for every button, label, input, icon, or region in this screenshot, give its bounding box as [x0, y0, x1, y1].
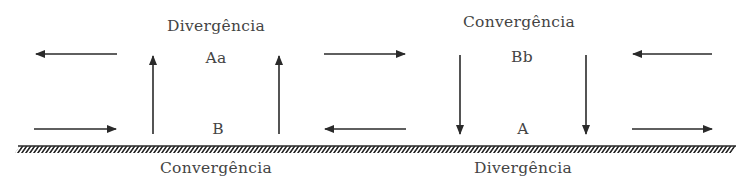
label-left-top-divergence: Divergência — [167, 17, 265, 35]
ground-surface — [15, 146, 736, 153]
label-high-a: A — [517, 120, 529, 138]
label-right-top-convergence: Convergência — [463, 13, 575, 31]
circulation-diagram: Divergência Aa B Convergência Convergênc… — [0, 0, 750, 184]
label-upper-low-bb: Bb — [511, 48, 533, 66]
label-left-bottom-convergence: Convergência — [160, 159, 272, 177]
label-upper-high-aa: Aa — [205, 49, 226, 67]
label-right-bottom-divergence: Divergência — [474, 159, 572, 177]
diagram-canvas — [0, 0, 750, 184]
label-low-b: B — [212, 120, 224, 138]
